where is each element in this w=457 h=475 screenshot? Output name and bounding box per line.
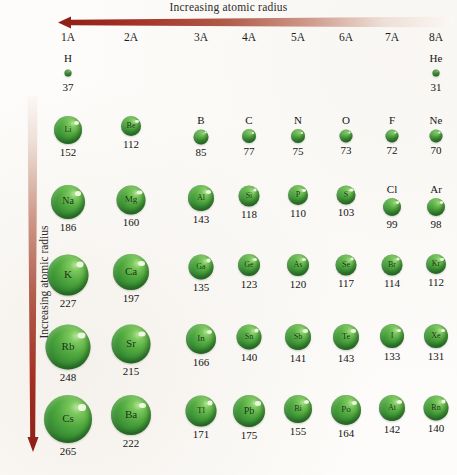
sphere-slot: Rb — [36, 322, 100, 371]
element-symbol-inside: Pb — [233, 395, 265, 427]
sphere-slot — [404, 127, 457, 144]
sphere-slot: Rn — [404, 393, 457, 422]
element-symbol-above: Ne — [404, 114, 457, 127]
element-symbol-inside: Ca — [113, 254, 149, 290]
element-radius-value: 215 — [99, 365, 163, 378]
element-symbol-inside: Te — [333, 324, 359, 350]
group-header-6a: 6A — [326, 31, 366, 43]
atom-sphere-al: Al — [188, 185, 214, 211]
atom-sphere-mg: Mg — [117, 185, 146, 214]
atom-sphere-tl: Tl — [186, 395, 217, 426]
element-radius-value: 131 — [404, 350, 457, 363]
element-symbol-inside: Kr — [426, 254, 446, 274]
element-symbol-inside: Ba — [111, 395, 151, 435]
element-sr: SrSr215 — [99, 322, 163, 378]
element-radius-value: 112 — [404, 276, 457, 289]
element-symbol-inside: In — [186, 324, 216, 354]
sphere-slot: Kr — [404, 252, 457, 276]
element-symbol-inside: K — [48, 254, 89, 295]
atom-sphere-s: S — [337, 185, 356, 204]
atom-sphere-xe: Xe — [424, 324, 448, 348]
atom-sphere-kr: Kr — [426, 254, 446, 274]
atom-sphere-br: Br — [382, 254, 403, 275]
element-symbol-inside: Mg — [117, 185, 146, 214]
element-radius-value: 248 — [36, 371, 100, 384]
atom-sphere-se: Se — [336, 254, 357, 275]
atom-sphere-p: P — [288, 185, 308, 205]
element-symbol-inside: Tl — [186, 395, 217, 426]
atom-sphere-in: In — [186, 324, 216, 354]
element-radius-value: 70 — [404, 144, 457, 157]
element-radius-value: 37 — [36, 81, 100, 94]
element-symbol-inside: Se — [336, 254, 357, 275]
element-symbol-inside: Xe — [424, 324, 448, 348]
sphere-slot: Xe — [404, 322, 457, 350]
sphere-slot: Li — [36, 114, 100, 146]
atom-sphere-he — [433, 70, 440, 77]
element-symbol-above: He — [404, 52, 457, 65]
element-symbol-inside: Po — [331, 395, 361, 425]
sphere-slot: Cs — [36, 393, 100, 445]
atom-sphere-ga: Ga — [189, 254, 214, 279]
atom-sphere-cs: Cs — [44, 395, 92, 443]
element-symbol-inside: Rb — [46, 324, 91, 369]
element-symbol-above: H — [36, 52, 100, 65]
sphere-slot: Be — [99, 114, 163, 138]
element-radius-value: 112 — [99, 138, 163, 151]
atom-sphere-cl — [383, 198, 401, 216]
element-rb: RbRb248 — [36, 322, 100, 384]
atom-sphere-k: K — [48, 254, 89, 295]
increasing-radius-arrow-horizontal — [58, 15, 454, 30]
atom-sphere-h — [65, 70, 72, 77]
element-na: NaNa186 — [36, 183, 100, 234]
element-symbol-inside: As — [287, 254, 309, 276]
element-radius-value: 265 — [36, 445, 100, 458]
atom-sphere-ge: Ge — [238, 254, 260, 276]
sphere-slot — [404, 65, 457, 81]
element-symbol-inside: Li — [54, 116, 82, 144]
group-header-4a: 4A — [229, 31, 269, 43]
element-li: LiLi152 — [36, 114, 100, 159]
element-symbol-inside: Si — [239, 185, 260, 206]
atom-sphere-na: Na — [51, 185, 85, 219]
group-header-7a: 7A — [372, 31, 412, 43]
element-he: He31 — [404, 52, 457, 94]
element-symbol-inside: Sn — [237, 324, 262, 349]
group-header-1a: 1A — [48, 31, 88, 43]
element-k: KK227 — [36, 252, 100, 310]
atom-sphere-ca: Ca — [113, 254, 149, 290]
element-symbol-inside: S — [337, 185, 356, 204]
element-be: BeBe112 — [99, 114, 163, 151]
atomic-radius-diagram: Increasing atomic radius — [0, 0, 457, 475]
element-ca: CaCa197 — [99, 252, 163, 305]
element-symbol-inside: At — [379, 395, 405, 421]
atom-sphere-c — [242, 129, 256, 143]
sphere-slot: Na — [36, 183, 100, 221]
element-mg: MgMg160 — [99, 183, 163, 229]
sphere-slot: K — [36, 252, 100, 297]
atom-sphere-f — [386, 129, 399, 142]
horizontal-axis-title: Increasing atomic radius — [0, 1, 457, 13]
element-xe: XeXe131 — [404, 322, 457, 363]
atom-sphere-sr: Sr — [112, 324, 151, 363]
element-symbol-inside: Ge — [238, 254, 260, 276]
atom-sphere-bi: Bi — [284, 395, 312, 423]
element-radius-value: 140 — [404, 422, 457, 435]
group-header-5a: 5A — [278, 31, 318, 43]
atom-sphere-o — [340, 129, 353, 142]
atom-sphere-b — [194, 129, 209, 144]
group-header-8a: 8A — [416, 31, 456, 43]
element-symbol-inside: Sr — [112, 324, 151, 363]
element-kr: KrKr112 — [404, 252, 457, 289]
atom-sphere-rn: Rn — [424, 395, 449, 420]
element-radius-value: 227 — [36, 297, 100, 310]
element-radius-value: 197 — [99, 292, 163, 305]
element-ba: BaBa222 — [99, 393, 163, 450]
element-symbol-inside: Br — [382, 254, 403, 275]
atom-sphere-sb: Sb — [285, 324, 311, 350]
element-ne: Ne70 — [404, 114, 457, 157]
atom-sphere-be: Be — [121, 116, 141, 136]
atom-sphere-n — [291, 129, 305, 143]
group-header-2a: 2A — [111, 31, 151, 43]
atom-sphere-ba: Ba — [111, 395, 151, 435]
